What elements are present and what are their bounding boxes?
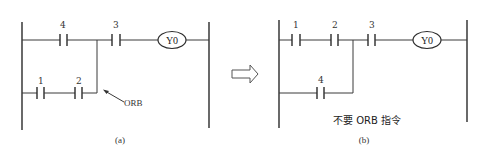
contact-label: 2 bbox=[332, 20, 338, 30]
ladder-diagram: 4 3 Y0 1 2 bbox=[0, 0, 481, 153]
panel-b: 1 2 3 Y0 4 不要 ORB 指令 bbox=[279, 20, 467, 145]
contact-label: 4 bbox=[318, 75, 324, 85]
caption-b: (b) bbox=[359, 135, 370, 145]
orb-label: ORB bbox=[124, 98, 143, 108]
panel-a: 4 3 Y0 1 2 bbox=[22, 20, 209, 145]
contact-label: 3 bbox=[113, 20, 119, 30]
coil-y0: Y0 bbox=[158, 32, 186, 49]
contact-4: 4 bbox=[60, 20, 67, 46]
contact-4: 4 bbox=[317, 75, 324, 99]
no-orb-note: 不要 ORB 指令 bbox=[333, 114, 401, 126]
coil-y0: Y0 bbox=[413, 32, 441, 49]
contact-label: 1 bbox=[293, 20, 299, 30]
pointer-arrow-icon bbox=[105, 91, 124, 102]
contact-label: 1 bbox=[38, 76, 44, 86]
orb-annotation: ORB bbox=[103, 90, 143, 109]
contact-3: 3 bbox=[112, 20, 120, 46]
transform-arrow-icon bbox=[232, 65, 258, 83]
contact-2: 2 bbox=[75, 76, 82, 99]
contact-label: 2 bbox=[76, 76, 82, 86]
coil-label: Y0 bbox=[166, 35, 178, 46]
contact-3: 3 bbox=[368, 20, 375, 46]
contact-label: 4 bbox=[60, 20, 66, 30]
contact-1: 1 bbox=[37, 76, 44, 99]
contact-1: 1 bbox=[292, 20, 300, 46]
caption-a: (a) bbox=[115, 135, 125, 145]
coil-label: Y0 bbox=[421, 35, 433, 46]
contact-2: 2 bbox=[331, 20, 338, 46]
contact-label: 3 bbox=[369, 20, 375, 30]
